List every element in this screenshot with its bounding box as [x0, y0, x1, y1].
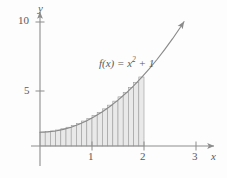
function-label-suffix: + 1 — [136, 57, 154, 69]
riemann-bar — [118, 97, 123, 146]
riemann-bar — [40, 132, 45, 146]
y-axis-label: y — [38, 2, 43, 14]
x-tick-label-1: 1 — [88, 150, 94, 162]
riemann-bar — [45, 132, 50, 146]
riemann-bar — [113, 101, 118, 146]
riemann-bar — [56, 130, 61, 146]
x-axis-label: x — [211, 150, 216, 162]
riemann-bar — [76, 123, 81, 146]
riemann-bar — [97, 112, 102, 146]
riemann-bar — [66, 127, 71, 146]
riemann-bar — [87, 118, 92, 146]
riemann-bar — [71, 125, 76, 146]
function-label-prefix: f(x) = x — [99, 57, 132, 69]
riemann-bar — [123, 92, 128, 146]
riemann-bar — [128, 87, 133, 146]
riemann-bar — [134, 82, 139, 146]
riemann-sum-figure: 10 5 1 2 3 y x f(x) = x2 + 1 — [0, 0, 227, 178]
y-tick-label-10: 10 — [18, 14, 29, 26]
x-tick-label-3: 3 — [192, 150, 198, 162]
x-tick-label-2: 2 — [140, 150, 146, 162]
riemann-bar — [50, 131, 55, 146]
function-annotation-label: f(x) = x2 + 1 — [99, 55, 154, 69]
riemann-bar — [102, 109, 107, 146]
riemann-bar — [139, 77, 144, 146]
riemann-bar — [108, 105, 113, 146]
riemann-bar — [92, 116, 97, 147]
y-tick-label-5: 5 — [24, 84, 30, 96]
riemann-bar — [82, 121, 87, 146]
riemann-bar — [61, 129, 66, 146]
riemann-rectangles — [40, 77, 144, 146]
